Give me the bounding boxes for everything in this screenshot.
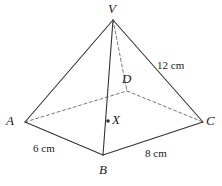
edge-VB <box>103 20 113 155</box>
vertex-label-c: C <box>206 114 215 127</box>
vertex-label-v: V <box>108 2 116 15</box>
edge-DC <box>127 91 203 122</box>
center-point-marker <box>106 119 110 123</box>
vertex-label-b: B <box>99 163 107 176</box>
pyramid-edges <box>25 20 203 155</box>
measurement-label-ab: 6 cm <box>33 143 55 154</box>
vertex-label-d: D <box>122 72 131 85</box>
pyramid-drawing <box>0 0 222 186</box>
center-point-label-x: X <box>112 113 120 126</box>
measurement-label-bc: 8 cm <box>145 148 167 159</box>
vertex-label-a: A <box>6 114 14 127</box>
center-point-dot <box>106 119 110 123</box>
pyramid-figure: V A B C D X 6 cm 8 cm 12 cm <box>0 0 222 186</box>
edge-VA <box>25 20 113 122</box>
measurement-label-vc: 12 cm <box>157 60 184 71</box>
